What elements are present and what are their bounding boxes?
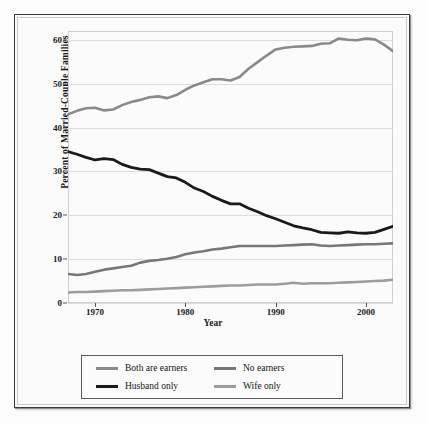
legend-item[interactable]: No earners: [214, 363, 332, 373]
series-lines: [68, 31, 393, 303]
legend-item[interactable]: Both are earners: [96, 363, 214, 373]
x-tick-label: 1970: [73, 307, 117, 317]
legend-item[interactable]: Husband only: [96, 381, 214, 391]
chart-legend: Both are earnersNo earnersHusband onlyWi…: [81, 355, 343, 399]
series-line: [68, 280, 393, 293]
series-line: [68, 152, 393, 234]
legend-swatch-icon: [96, 367, 118, 370]
y-tick-mark: [63, 127, 67, 128]
series-line: [68, 243, 393, 275]
legend-item-label: Husband only: [125, 381, 178, 391]
legend-item-label: No earners: [243, 363, 284, 373]
x-tick-mark: [366, 303, 367, 307]
y-tick-label: 0: [22, 298, 62, 308]
x-tick-mark: [95, 303, 96, 307]
y-tick-mark: [63, 303, 67, 304]
gridline: [68, 303, 393, 304]
y-tick-label: 50: [22, 79, 62, 89]
y-tick-label: 30: [22, 166, 62, 176]
y-tick-mark: [63, 259, 67, 260]
y-tick-mark: [63, 171, 67, 172]
x-tick-label: 1980: [163, 307, 207, 317]
x-tick-label: 1990: [254, 307, 298, 317]
y-tick-mark: [63, 215, 67, 216]
chart-page: Percent of Married-Couple Families Year …: [0, 0, 428, 424]
legend-grid: Both are earnersNo earnersHusband onlyWi…: [82, 356, 342, 398]
y-tick-label: 20: [22, 210, 62, 220]
legend-item-label: Wife only: [243, 381, 281, 391]
legend-item[interactable]: Wife only: [214, 381, 332, 391]
series-line: [68, 38, 393, 114]
chart-frame: Percent of Married-Couple Families Year …: [14, 14, 410, 408]
legend-swatch-icon: [214, 367, 236, 370]
legend-swatch-icon: [214, 385, 236, 388]
x-tick-mark: [276, 303, 277, 307]
x-axis-title: Year: [15, 318, 411, 328]
y-tick-label: 40: [22, 123, 62, 133]
y-tick-label: 10: [22, 254, 62, 264]
x-tick-label: 2000: [344, 307, 388, 317]
y-tick-mark: [63, 39, 67, 40]
y-tick-label: 60: [22, 35, 62, 45]
plot-wrapper: 0102030405060 1970198019902000: [68, 31, 393, 303]
legend-swatch-icon: [96, 385, 118, 388]
x-tick-mark: [185, 303, 186, 307]
y-tick-mark: [63, 83, 67, 84]
legend-item-label: Both are earners: [125, 363, 187, 373]
